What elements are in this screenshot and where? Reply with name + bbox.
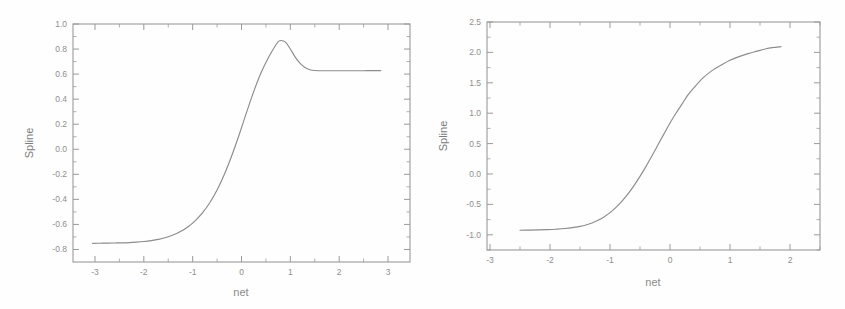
spline-plot-right: -1.0-0.50.00.51.01.52.02.5 -3-2-1012 net… xyxy=(420,0,845,309)
x-axis-ticks-right xyxy=(490,22,790,250)
y-tick-label: 0.5 xyxy=(469,139,481,149)
y-tick-labels-left: -0.8-0.6-0.4-0.20.00.20.40.60.81.0 xyxy=(52,19,67,254)
x-tick-label: -1 xyxy=(606,255,614,265)
y-tick-label: 1.0 xyxy=(55,19,67,29)
x-tick-label: -3 xyxy=(486,255,494,265)
y-tick-label: -0.4 xyxy=(52,194,67,204)
y-tick-label: 0.0 xyxy=(469,169,481,179)
y-tick-label: 1.0 xyxy=(469,108,481,118)
spline-curve-left xyxy=(93,41,381,244)
chart-panel-right: -1.0-0.50.00.51.01.52.02.5 -3-2-1012 net… xyxy=(420,0,845,309)
y-tick-label: 1.5 xyxy=(469,78,481,88)
y-axis-ticks-left xyxy=(73,24,410,249)
figure-container: -0.8-0.6-0.4-0.20.00.20.40.60.81.0 -3-2-… xyxy=(0,0,845,309)
y-axis-title-left: Spline xyxy=(23,128,35,159)
x-tick-label: -3 xyxy=(91,267,99,277)
chart-panel-left: -0.8-0.6-0.4-0.20.00.20.40.60.81.0 -3-2-… xyxy=(0,0,420,309)
y-axis-title-right: Spline xyxy=(437,121,449,152)
y-tick-label: 0.2 xyxy=(55,119,67,129)
y-tick-labels-right: -1.0-0.50.00.51.01.52.02.5 xyxy=(466,17,481,240)
x-tick-label: 0 xyxy=(668,255,673,265)
x-tick-label: -2 xyxy=(140,267,148,277)
x-tick-label: 2 xyxy=(788,255,793,265)
y-tick-label: -0.6 xyxy=(52,219,67,229)
minor-ticks-right xyxy=(487,22,820,250)
x-tick-label: 1 xyxy=(288,267,293,277)
y-tick-label: 2.5 xyxy=(469,17,481,27)
x-tick-label: -2 xyxy=(546,255,554,265)
plot-frame-left xyxy=(73,24,410,262)
y-axis-ticks-right xyxy=(487,22,820,235)
y-tick-label: 0.6 xyxy=(55,69,67,79)
y-tick-label: 2.0 xyxy=(469,47,481,57)
y-tick-label: -1.0 xyxy=(466,230,481,240)
plot-frame-right xyxy=(487,22,820,250)
spline-plot-left: -0.8-0.6-0.4-0.20.00.20.40.60.81.0 -3-2-… xyxy=(0,0,420,309)
x-axis-ticks-left xyxy=(95,24,388,262)
x-axis-title-left: net xyxy=(233,286,248,298)
x-tick-label: 3 xyxy=(386,267,391,277)
x-tick-label: 0 xyxy=(239,267,244,277)
spline-curve-right xyxy=(520,47,781,231)
x-tick-labels-left: -3-2-10123 xyxy=(91,267,390,277)
x-tick-label: 1 xyxy=(728,255,733,265)
y-tick-label: 0.0 xyxy=(55,144,67,154)
x-axis-title-right: net xyxy=(645,276,660,288)
x-tick-label: -1 xyxy=(189,267,197,277)
x-tick-label: 2 xyxy=(337,267,342,277)
y-tick-label: -0.5 xyxy=(466,199,481,209)
y-tick-label: 0.4 xyxy=(55,94,67,104)
minor-ticks-left xyxy=(73,24,410,262)
y-tick-label: -0.2 xyxy=(52,169,67,179)
y-tick-label: -0.8 xyxy=(52,244,67,254)
y-tick-label: 0.8 xyxy=(55,44,67,54)
x-tick-labels-right: -3-2-1012 xyxy=(486,255,792,265)
